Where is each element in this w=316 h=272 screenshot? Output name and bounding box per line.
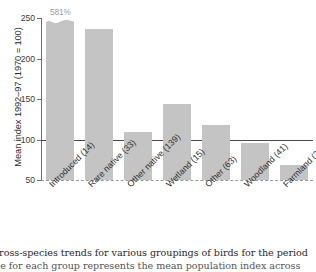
y-tick-mark-150: [37, 99, 41, 100]
y-tick-label-200: 200: [13, 54, 35, 64]
plot-area: Mean index 1992–97 (1970 = 100) 25020015…: [0, 0, 316, 240]
bar-value-label: 581%: [40, 8, 80, 17]
y-tick-mark-100: [37, 140, 41, 141]
caption-line-1: n, across-species trends for various gro…: [0, 247, 308, 258]
broken-axis-wave-icon: [46, 19, 74, 27]
bar: [46, 19, 74, 180]
x-axis-category-labels: Introduced (14)Rare native (33)Other nat…: [41, 182, 313, 240]
y-tick-label-100: 100: [13, 135, 35, 145]
y-tick-mark-250: [37, 18, 41, 19]
bar-body: [46, 24, 74, 180]
caption-line-2: value for each group represents the mean…: [0, 260, 300, 271]
y-tick-mark-50: [37, 180, 41, 181]
y-tick-label-250: 250: [13, 13, 35, 23]
y-tick-mark-200: [37, 59, 41, 60]
y-tick-label-150: 150: [13, 94, 35, 104]
y-axis-tick-labels: 25020015010050: [13, 0, 35, 240]
figure-caption: n, across-species trends for various gro…: [0, 243, 316, 272]
bar-chart-figure: Mean index 1992–97 (1970 = 100) 25020015…: [0, 0, 316, 272]
y-tick-label-50: 50: [13, 175, 35, 185]
